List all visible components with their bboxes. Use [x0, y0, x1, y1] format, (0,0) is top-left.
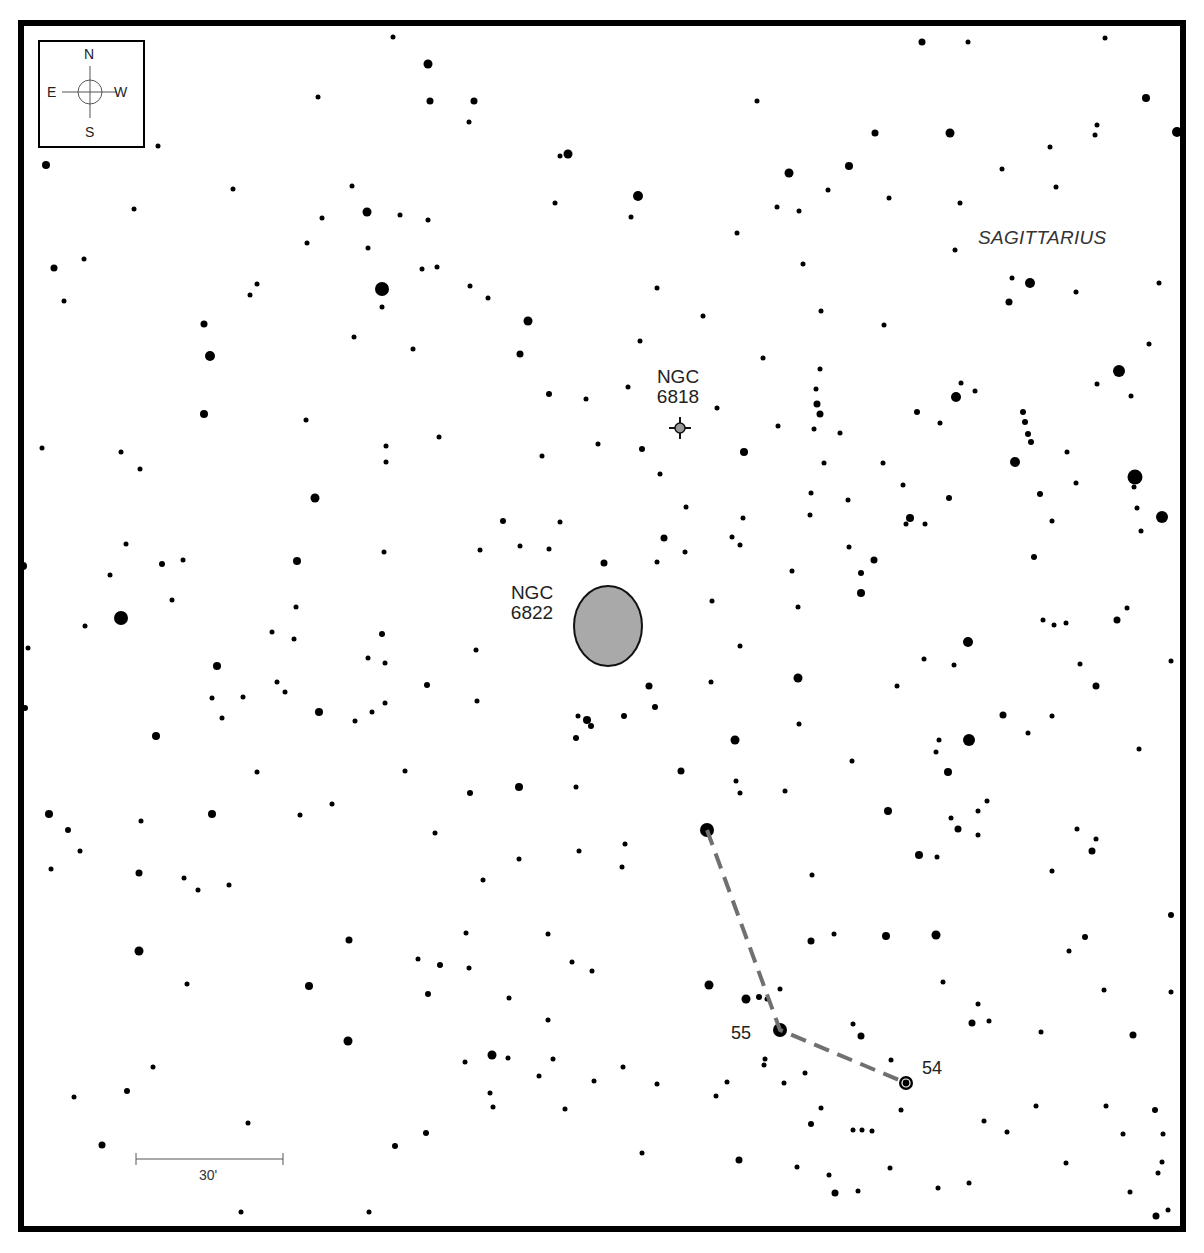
star-dot	[182, 876, 187, 881]
star-dot	[517, 351, 524, 358]
star-dot	[1156, 1171, 1161, 1176]
compass-west-label: W	[114, 84, 127, 100]
star-dot	[655, 1082, 660, 1087]
star-dot	[742, 995, 751, 1004]
star-dot	[919, 39, 926, 46]
star-dot	[953, 248, 958, 253]
star-dot	[808, 938, 815, 945]
star-dot	[1052, 623, 1057, 628]
star-dot	[1113, 365, 1125, 377]
star-dot	[1005, 1130, 1010, 1135]
star-dot	[380, 305, 385, 310]
star-dot	[1128, 1190, 1133, 1195]
star-dot	[114, 611, 128, 625]
star-dot	[899, 1108, 904, 1113]
star-dot	[72, 1095, 77, 1100]
star-dot	[851, 1128, 856, 1133]
star-dot	[1169, 659, 1174, 664]
star-dot	[856, 1189, 861, 1194]
star-dot	[801, 262, 806, 267]
star-dot	[467, 790, 473, 796]
star-dot	[846, 498, 851, 503]
star-dot	[275, 680, 280, 685]
ngc6822-label[interactable]: NGC 6822	[502, 583, 562, 623]
star-dot	[827, 1173, 832, 1178]
star-dot	[255, 770, 260, 775]
star-dot	[621, 1065, 626, 1070]
star-dot	[320, 216, 325, 221]
compass-north-label: N	[84, 46, 94, 62]
star-dot	[814, 387, 819, 392]
star-dot	[367, 1210, 372, 1215]
star-dot	[1025, 278, 1035, 288]
star-dot	[935, 855, 940, 860]
star-dot	[507, 996, 512, 1001]
compass-east-label: E	[47, 84, 56, 100]
star-dot	[881, 461, 886, 466]
star-dot	[946, 495, 952, 501]
star-dot	[424, 682, 430, 688]
star-dot	[1054, 185, 1059, 190]
star-dot	[437, 435, 442, 440]
star-dot	[486, 296, 491, 301]
star-dot	[822, 461, 827, 466]
star-dot	[601, 560, 608, 567]
star-dot	[152, 732, 160, 740]
star-dot	[762, 1063, 767, 1068]
star-dot	[181, 558, 186, 563]
ngc6822-galaxy-icon[interactable]	[574, 586, 642, 666]
star-dot	[1034, 1104, 1039, 1109]
star-dot	[976, 833, 981, 838]
star-dot	[796, 605, 801, 610]
star-dot	[208, 810, 216, 818]
star-dot	[860, 1128, 865, 1133]
star-dot	[65, 827, 71, 833]
star-dot	[22, 705, 28, 711]
star-dot	[471, 98, 478, 105]
star-dot	[491, 1105, 496, 1110]
star-dot	[1028, 439, 1034, 445]
star-dot	[735, 231, 740, 236]
star-dot	[1168, 912, 1174, 918]
star-dot	[382, 550, 387, 555]
star-dot	[500, 518, 506, 524]
star-dot	[1157, 281, 1162, 286]
star-dot	[776, 424, 781, 429]
star-chart	[0, 0, 1204, 1253]
star-dot	[467, 966, 472, 971]
star-dot	[790, 569, 795, 574]
star-dot	[638, 339, 643, 344]
star-dot	[553, 201, 558, 206]
ngc6818-label[interactable]: NGC 6818	[648, 367, 708, 407]
star-dot	[99, 1142, 106, 1149]
star-dot	[551, 1057, 556, 1062]
star-dot	[574, 785, 579, 790]
star-dot	[433, 831, 438, 836]
star-dot	[159, 561, 165, 567]
star-dot	[270, 630, 275, 635]
compass-south-label: S	[85, 124, 94, 140]
star-dot	[283, 690, 288, 695]
star-dot	[135, 947, 144, 956]
star-dot	[899, 1076, 913, 1090]
star-dot	[809, 491, 814, 496]
star-dot	[1128, 470, 1143, 485]
star-dot	[987, 1019, 992, 1024]
star-dot	[730, 535, 735, 540]
star-dot	[915, 851, 923, 859]
star-dot	[119, 450, 124, 455]
star-dot	[185, 982, 190, 987]
star-dot	[49, 867, 54, 872]
star-dot	[124, 1088, 130, 1094]
star-dot	[379, 631, 385, 637]
star-dot	[124, 542, 129, 547]
star-dot	[904, 522, 909, 527]
star-dot	[420, 267, 425, 272]
star-dot	[1166, 1208, 1171, 1213]
star-dot	[398, 213, 403, 218]
star-dot	[210, 696, 215, 701]
star-dot	[384, 444, 389, 449]
star-dot	[370, 710, 375, 715]
star-dot	[646, 683, 653, 690]
star-dot	[156, 144, 161, 149]
